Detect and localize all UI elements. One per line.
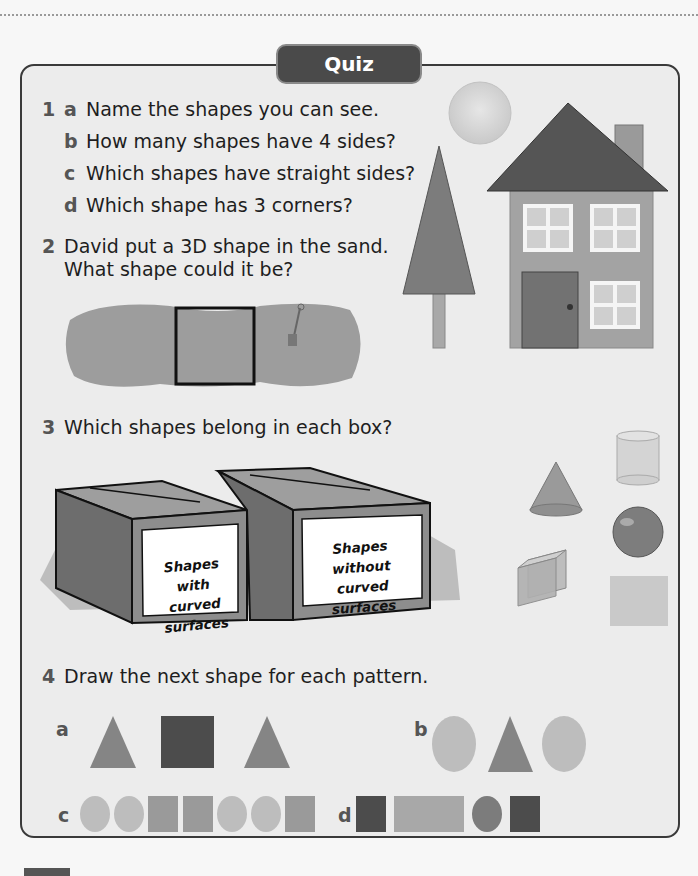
q1-part-d-text: Which shape has 3 corners? [86, 194, 353, 216]
q3-text: Which shapes belong in each box? [64, 416, 392, 438]
pattern-b [432, 714, 612, 774]
circle-icon [80, 796, 110, 832]
3d-shapes-illustration [510, 430, 670, 640]
q1-part-b-letter: b [64, 130, 78, 152]
cube-icon [518, 550, 566, 606]
square-icon [183, 796, 213, 832]
q4-text: Draw the next shape for each pattern. [64, 665, 428, 687]
question-1-number: 1 [42, 98, 55, 120]
quiz-title: Quiz [324, 52, 374, 76]
square-prism-icon [610, 576, 668, 626]
square-icon [285, 796, 315, 832]
pattern-b-letter: b [414, 718, 428, 740]
pattern-a-letter: a [56, 718, 69, 740]
circle-icon [251, 796, 281, 832]
question-4-number: 4 [42, 665, 55, 687]
q2-line-2: What shape could it be? [64, 258, 293, 280]
house-scene-illustration [390, 60, 690, 370]
question-3-number: 3 [42, 416, 55, 438]
q1-part-a-text: Name the shapes you can see. [86, 98, 379, 120]
circle-icon [217, 796, 247, 832]
circle-icon [432, 716, 476, 772]
sphere-icon [613, 507, 663, 557]
square-icon [148, 796, 178, 832]
triangle-icon [244, 716, 290, 768]
box-label-not-curved-line2: curved surfaces [303, 573, 424, 621]
pattern-a [85, 714, 285, 770]
pattern-d-letter: d [338, 804, 352, 826]
pattern-c [80, 796, 330, 834]
circle-icon [114, 796, 144, 832]
rectangle-icon [394, 796, 464, 832]
q2-line-1: David put a 3D shape in the sand. [64, 235, 389, 257]
top-dotted-divider [0, 14, 698, 16]
square-icon [161, 716, 214, 768]
cylinder-icon [617, 431, 659, 485]
q1-part-a-letter: a [64, 98, 77, 120]
triangle-icon [488, 716, 533, 772]
box-label-curved-line2: curved surfaces [148, 591, 243, 639]
q1-part-c-letter: c [64, 162, 75, 184]
square-icon [510, 796, 540, 832]
question-2-number: 2 [42, 235, 55, 257]
cone-icon [530, 462, 582, 516]
triangle-icon [90, 716, 136, 768]
page-footer-marker [24, 868, 70, 876]
q1-part-b-text: How many shapes have 4 sides? [86, 130, 396, 152]
q1-part-c-text: Which shapes have straight sides? [86, 162, 415, 184]
circle-icon [472, 796, 502, 832]
pattern-d [356, 796, 676, 834]
sand-imprint-illustration [60, 300, 370, 392]
circle-icon [542, 716, 586, 772]
square-icon [356, 796, 386, 832]
sun-circle-icon [449, 82, 511, 144]
box-label-curved: Shapes with curved surfaces [145, 551, 244, 639]
q1-part-d-letter: d [64, 194, 78, 216]
tree-icon [403, 146, 475, 348]
pattern-c-letter: c [58, 804, 69, 826]
house-icon [487, 103, 668, 348]
box-label-not-curved: Shapes without curved surfaces [300, 533, 423, 621]
